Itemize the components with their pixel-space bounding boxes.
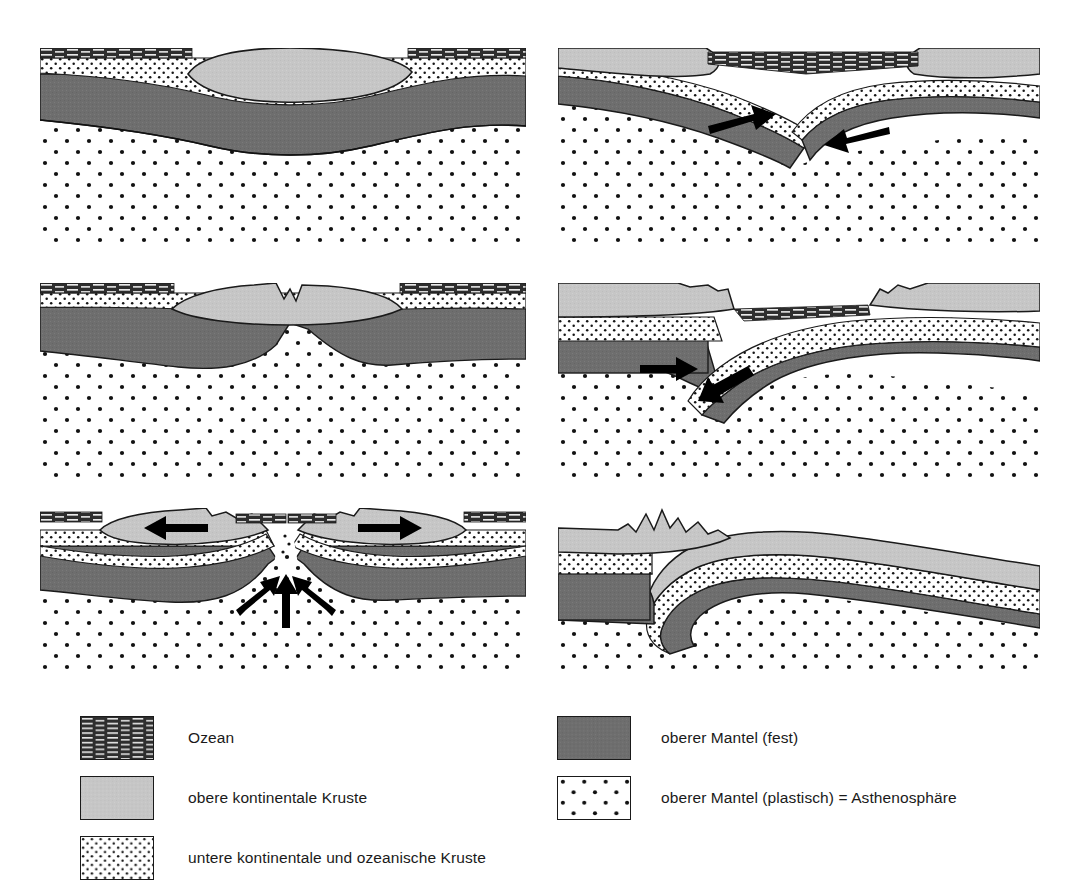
swatch-ozean [80,716,154,760]
legend-item-obere-kruste: obere kontinentale Kruste [80,768,540,828]
legend-label-mantel-fest: oberer Mantel (fest) [661,729,798,747]
legend-column-left: Ozean obere kontinentale Kruste untere k… [80,708,540,888]
panel-continental-collision-orogeny [558,508,1040,676]
legend: Ozean obere kontinentale Kruste untere k… [0,690,1072,890]
legend-label-ozean: Ozean [188,729,234,747]
legend-label-obere-kruste: obere kontinentale Kruste [188,789,367,807]
panel-subduction-zone [558,283,1040,479]
legend-item-untere-kruste: untere kontinentale und ozeanische Krust… [80,828,540,888]
legend-item-mantel-fest: oberer Mantel (fest) [557,708,1057,768]
swatch-mantel-fest [557,716,631,760]
swatch-untere-kruste [80,836,154,880]
panel-continent-continent-convergence [558,48,1040,248]
legend-item-mantel-plastisch: oberer Mantel (plastisch) = Asthenosphär… [557,768,1057,828]
legend-label-mantel-plastisch: oberer Mantel (plastisch) = Asthenosphär… [661,789,957,807]
panel-continental-rift-initiation [40,283,526,479]
panel-seafloor-spreading [40,508,526,676]
tectonics-figure: Ozean obere kontinentale Kruste untere k… [0,0,1072,890]
legend-item-ozean: Ozean [80,708,540,768]
legend-column-right: oberer Mantel (fest) oberer Mantel (plas… [557,708,1057,828]
swatch-mantel-plastisch [557,776,631,820]
swatch-obere-kruste [80,776,154,820]
legend-label-untere-kruste: untere kontinentale und ozeanische Krust… [188,849,486,867]
panel-continental-crust-thickening [40,48,526,248]
